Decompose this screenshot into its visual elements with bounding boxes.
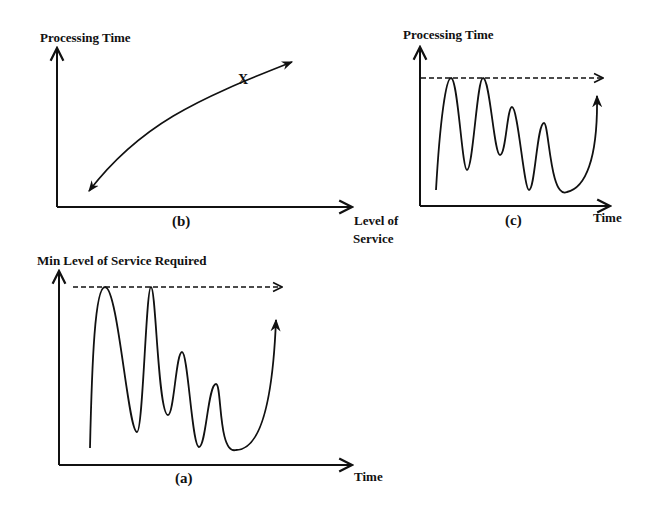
panel-b-axes [57, 48, 352, 207]
panel-b-curve [89, 62, 292, 191]
panel-b-x-label-line2: Service [353, 231, 393, 247]
panel-c-x-label: Time [593, 210, 622, 226]
panel-b-x-label-line1: Level of [354, 213, 398, 229]
panel-c-y-label: Processing Time [403, 27, 494, 43]
panel-a-y-label: Min Level of Service Required [37, 253, 206, 269]
panel-c-curve [436, 78, 597, 193]
panel-a-caption: (a) [175, 470, 193, 487]
panel-a-axes [59, 271, 352, 465]
panel-b-caption: (b) [172, 213, 190, 230]
panel-c-caption: (c) [505, 212, 522, 229]
panel-b-y-label: Processing Time [40, 30, 131, 46]
panel-b-marker-x: X [238, 72, 248, 88]
panel-a-x-label: Time [354, 469, 383, 485]
panel-a-curve [90, 287, 276, 450]
